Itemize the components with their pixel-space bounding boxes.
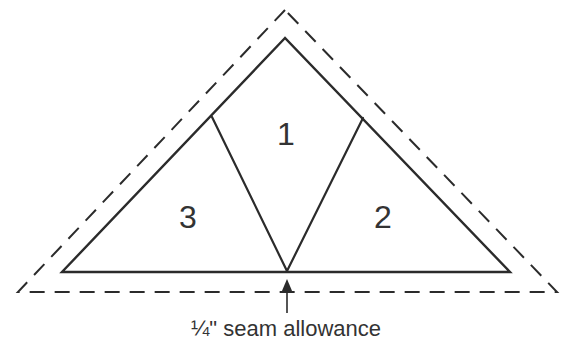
seam-allowance-caption: ¼" seam allowance: [191, 316, 381, 341]
diagram-svg: 1 2 3 ¼" seam allowance: [0, 0, 573, 351]
piece-2-label: 2: [374, 199, 392, 235]
triangle-solid-outline: [62, 38, 510, 272]
seam-line-right: [287, 118, 363, 271]
arrow-up-icon: [282, 279, 293, 313]
seam-line-left: [212, 117, 287, 271]
piece-1-label: 1: [277, 116, 295, 152]
arrow-head: [282, 279, 293, 292]
triangle-template-diagram: 1 2 3 ¼" seam allowance: [0, 0, 573, 351]
piece-3-label: 3: [179, 199, 197, 235]
